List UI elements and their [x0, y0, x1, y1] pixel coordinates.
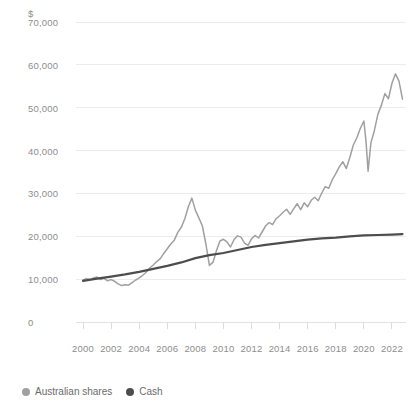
plot-area: [0, 0, 412, 419]
legend-label: Australian shares: [35, 386, 112, 397]
legend-item[interactable]: Australian shares: [22, 386, 112, 397]
chart-container: $ 70,00060,00050,00040,00030,00020,00010…: [0, 0, 412, 419]
legend-swatch-icon: [22, 388, 30, 396]
data-series-layer: [83, 74, 402, 286]
legend-label: Cash: [139, 386, 162, 397]
legend-swatch-icon: [126, 388, 134, 396]
x-axis-tick-marks: [83, 323, 392, 329]
chart-legend: Australian sharesCash: [22, 386, 163, 397]
series-line: [83, 74, 402, 286]
gridlines: [76, 22, 406, 322]
legend-item[interactable]: Cash: [126, 386, 162, 397]
